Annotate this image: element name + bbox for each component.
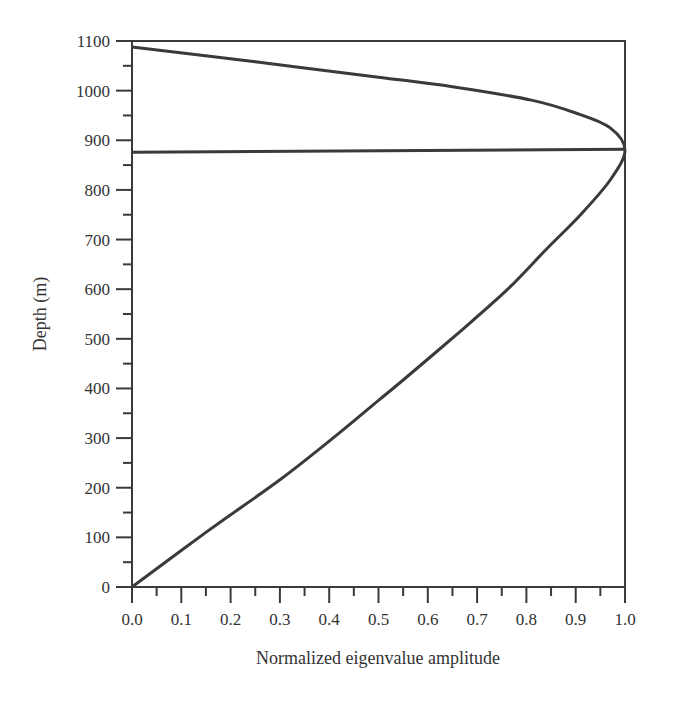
x-tick-label: 0.1 — [171, 610, 192, 629]
y-tick-label: 400 — [85, 379, 111, 398]
x-tick-label: 0.3 — [269, 610, 290, 629]
y-tick-label: 700 — [85, 231, 111, 250]
y-tick-label: 900 — [85, 131, 111, 150]
series-layer — [132, 47, 625, 587]
plot-frame — [132, 41, 625, 587]
x-tick-label: 0.4 — [319, 610, 341, 629]
y-axis-ticks: 010020030040050060070080090010001100 — [76, 32, 132, 597]
x-tick-label: 0.8 — [516, 610, 537, 629]
y-tick-label: 600 — [85, 280, 111, 299]
y-tick-label: 200 — [85, 479, 111, 498]
x-tick-label: 1.0 — [614, 610, 635, 629]
x-tick-label: 0.5 — [368, 610, 389, 629]
y-tick-label: 1100 — [77, 32, 110, 51]
x-axis-label: Normalized eigenvalue amplitude — [256, 648, 500, 668]
x-tick-label: 0.9 — [565, 610, 586, 629]
y-tick-label: 100 — [85, 528, 111, 547]
x-tick-label: 0.6 — [417, 610, 438, 629]
x-tick-label: 0.7 — [466, 610, 488, 629]
x-axis-ticks: 0.00.10.20.30.40.50.60.70.80.91.0 — [121, 587, 635, 629]
x-tick-label: 0.2 — [220, 610, 241, 629]
y-tick-label: 300 — [85, 429, 111, 448]
interface-line-line — [132, 149, 625, 152]
depth-eigenvalue-chart: 0.00.10.20.30.40.50.60.70.80.91.0 010020… — [0, 0, 675, 704]
x-tick-label: 0.0 — [121, 610, 142, 629]
plot-border — [132, 41, 625, 587]
y-tick-label: 500 — [85, 330, 111, 349]
eigenfunction-line — [132, 47, 625, 587]
y-tick-label: 0 — [102, 578, 111, 597]
chart-canvas: 0.00.10.20.30.40.50.60.70.80.91.0 010020… — [0, 0, 675, 704]
y-tick-label: 800 — [85, 181, 111, 200]
y-axis-label: Depth (m) — [30, 277, 51, 351]
y-tick-label: 1000 — [76, 82, 110, 101]
